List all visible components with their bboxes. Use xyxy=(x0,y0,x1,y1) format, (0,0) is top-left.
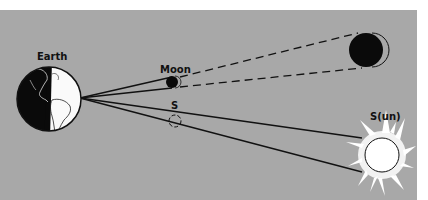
moon-extended-dashed-lines xyxy=(180,33,362,87)
moon-label: Moon xyxy=(160,64,191,75)
angular-size-diagram xyxy=(0,0,428,200)
moon-near xyxy=(166,76,181,88)
sun-sight-lines xyxy=(80,98,362,172)
sun-small-label: S xyxy=(171,100,178,111)
moon-sight-lines xyxy=(80,77,172,98)
sun-label: S(un) xyxy=(370,111,401,122)
earth-globe xyxy=(10,60,81,140)
sun-small-outline xyxy=(169,115,181,127)
sun-large xyxy=(346,110,416,196)
earth-label: Earth xyxy=(37,51,67,62)
moon-far xyxy=(349,33,389,67)
